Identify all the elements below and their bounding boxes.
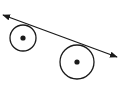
circle-large	[60, 45, 94, 79]
center-point-large	[74, 59, 79, 64]
circle-small	[10, 25, 36, 51]
center-point-small	[20, 35, 25, 40]
diagram-canvas	[0, 0, 120, 91]
